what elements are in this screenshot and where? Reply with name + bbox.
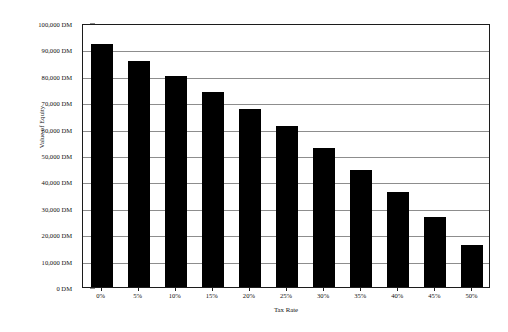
y-axis-tick-label: 30,000 DM: [42, 205, 72, 212]
x-axis-tick-label: 20%: [229, 291, 269, 300]
bar: [350, 170, 372, 287]
y-axis-tick-label: 70,000 DM: [42, 100, 72, 107]
x-axis-tick-label: 25%: [266, 291, 306, 300]
bar: [276, 126, 298, 287]
x-axis-tick-label: 35%: [340, 291, 380, 300]
y-axis-tick-label: 40,000 DM: [42, 179, 72, 186]
bar: [202, 92, 224, 287]
y-axis-tick-label: 20,000 DM: [42, 232, 72, 239]
y-axis-tick-label-group: 0 DM10,000 DM20,000 DM30,000 DM40,000 DM…: [18, 0, 76, 332]
x-axis-tick-label: 50%: [451, 291, 491, 300]
x-axis-tick-label: 30%: [303, 291, 343, 300]
x-axis-tick-label-group: 0%5%10%15%20%25%30%35%40%45%50%: [82, 291, 490, 303]
bar: [165, 76, 187, 287]
bar: [128, 61, 150, 287]
y-axis-tick-label: 100,000 DM: [38, 21, 72, 28]
y-axis-tick-label: 60,000 DM: [42, 126, 72, 133]
x-axis-title: Tax Rate: [82, 305, 490, 314]
bar: [387, 192, 409, 287]
x-axis-tick-label: 40%: [377, 291, 417, 300]
y-axis-tick-label: 50,000 DM: [42, 153, 72, 160]
bar: [424, 217, 446, 287]
bar: [91, 44, 113, 287]
bar: [461, 245, 483, 287]
x-axis-tick-label: 45%: [414, 291, 454, 300]
x-axis-tick-label: 15%: [192, 291, 232, 300]
bar: [239, 109, 261, 287]
y-axis-tick-label: 90,000 DM: [42, 47, 72, 54]
bar-chart: Value of Equity 0 DM10,000 DM20,000 DM30…: [0, 0, 508, 332]
y-axis-tick-label: 80,000 DM: [42, 73, 72, 80]
y-axis-tick-label: 10,000 DM: [42, 258, 72, 265]
bar: [313, 148, 335, 287]
x-axis-tick-label: 5%: [118, 291, 158, 300]
y-axis-tick-label: 0 DM: [56, 285, 72, 292]
bar-series: [83, 25, 489, 287]
x-axis-tick-label: 10%: [155, 291, 195, 300]
plot-area: [82, 24, 490, 288]
x-axis-tick-label: 0%: [81, 291, 121, 300]
